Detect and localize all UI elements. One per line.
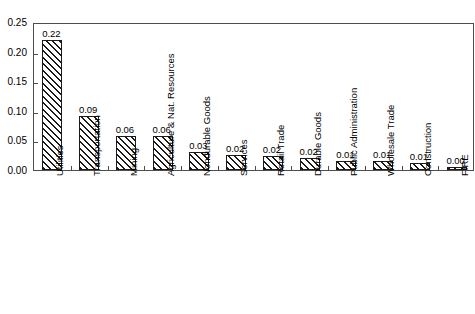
x-tick-mark (71, 166, 72, 170)
x-tick-mark (108, 166, 109, 170)
category-label: Wholesale Trade (386, 105, 396, 176)
y-tick-mark (34, 113, 38, 114)
bar-value-label: 0.09 (68, 105, 108, 115)
category-label: Services (239, 140, 249, 176)
y-tick-mark (34, 83, 38, 84)
x-tick-mark (181, 166, 182, 170)
y-tick-label: 0.15 (8, 77, 31, 87)
x-tick-mark (291, 166, 292, 170)
y-tick-label: 0.10 (8, 107, 31, 117)
category-label: FIRE (460, 154, 470, 176)
category-label: Agriculture & Nat. Resources (166, 54, 176, 177)
category-label: Transportation (92, 115, 102, 176)
x-tick-mark (255, 166, 256, 170)
bar-value-label: 0.01 (362, 150, 402, 160)
y-tick-label: 0.00 (8, 166, 31, 176)
y-axis: 0.000.050.100.150.200.25 (0, 0, 31, 314)
bar-chart: 0.000.050.100.150.200.25 0.220.090.060.0… (0, 0, 475, 314)
x-tick-mark (144, 166, 145, 170)
category-label: Utilities (55, 145, 65, 176)
bar-value-label: 0.03 (178, 141, 218, 151)
bar-value-label: 0.02 (215, 144, 255, 154)
category-label: Mining (129, 148, 139, 176)
category-label: Retail Trade (276, 125, 286, 176)
category-label: Construction (423, 123, 433, 176)
bar-value-label: 0.22 (31, 29, 71, 39)
x-tick-mark (402, 166, 403, 170)
y-tick-label: 0.05 (8, 136, 31, 146)
category-label: Nondurable Goods (202, 96, 212, 176)
y-tick-mark (34, 54, 38, 55)
x-tick-mark (438, 166, 439, 170)
x-tick-mark (218, 166, 219, 170)
category-label: Durable Goods (313, 112, 323, 176)
y-tick-label: 0.25 (8, 18, 31, 28)
x-tick-mark (365, 166, 366, 170)
y-tick-mark (34, 142, 38, 143)
bar-value-label: 0.06 (105, 125, 145, 135)
x-tick-mark (328, 166, 329, 170)
category-label: Public Administration (349, 88, 359, 176)
bar-value-label: 0.01 (325, 150, 365, 160)
y-tick-label: 0.20 (8, 48, 31, 58)
